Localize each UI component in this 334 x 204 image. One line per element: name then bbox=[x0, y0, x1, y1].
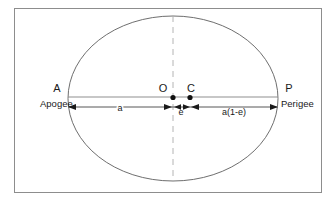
label-periapsis-distance: a(1-e) bbox=[222, 107, 246, 117]
focus-dot bbox=[187, 95, 192, 100]
label-perigee-name: Perigee bbox=[281, 98, 314, 109]
label-centre-point: O bbox=[159, 82, 168, 94]
label-apogee-point: A bbox=[53, 82, 61, 94]
centre-dot bbox=[170, 95, 175, 100]
label-perigee-point: P bbox=[285, 82, 292, 94]
label-eccentric-offset: e bbox=[178, 107, 183, 117]
figure-canvas: A Apogee P Perigee O C a e a(1-e) bbox=[0, 0, 334, 204]
label-focus-point: C bbox=[187, 82, 195, 94]
label-semi-major-axis: a bbox=[117, 103, 122, 113]
label-apogee-name: Apogee bbox=[40, 98, 73, 109]
